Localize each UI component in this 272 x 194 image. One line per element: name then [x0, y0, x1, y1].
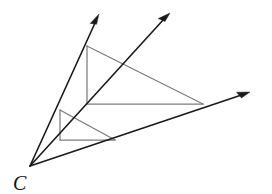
ray-middle-arrowhead-icon	[158, 13, 170, 22]
geometry-canvas: C	[0, 0, 272, 194]
ray-upper-left-arrowhead-icon	[90, 14, 99, 24]
ray-group	[30, 13, 250, 166]
large-triangle-hypotenuse	[87, 46, 203, 104]
geometry-figure: C	[0, 0, 272, 194]
polygon-group	[60, 46, 203, 140]
ray-upper-left	[30, 23, 95, 166]
ray-lower-right-arrowhead-icon	[237, 92, 251, 98]
vertex-label-c: C	[13, 172, 27, 194]
